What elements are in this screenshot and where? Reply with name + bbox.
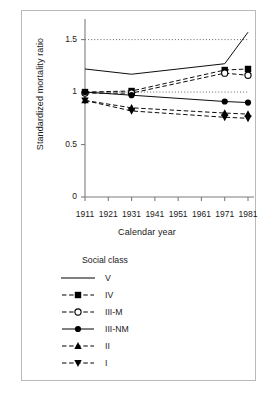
- legend-item-label: V: [105, 273, 111, 283]
- open-circle-marker-icon: [58, 305, 98, 319]
- filled-square-marker-icon: [58, 288, 98, 302]
- y-tick-label: 1.5: [55, 34, 77, 44]
- x-tick-label: 1921: [95, 209, 121, 219]
- figure-frame: Standardized mortality ratio Calendar ye…: [21, 10, 256, 381]
- legend-item-v[interactable]: V: [58, 269, 248, 286]
- legend-item-iii-nm[interactable]: III-NM: [58, 320, 248, 337]
- filled-circle-marker-icon: [58, 322, 98, 336]
- x-tick-label: 1961: [188, 209, 214, 219]
- legend-item-label: IV: [105, 290, 113, 300]
- legend-item-iv[interactable]: IV: [58, 286, 248, 303]
- filled-triangle-up-marker-icon: [58, 339, 98, 353]
- legend-item-label: III-M: [105, 307, 122, 317]
- legend-item-label: III-NM: [105, 324, 129, 334]
- x-tick-label: 1981: [235, 209, 261, 219]
- filled-triangle-down-marker-icon: [58, 356, 98, 370]
- x-tick-label: 1951: [165, 209, 191, 219]
- legend-item-iii-m[interactable]: III-M: [58, 303, 248, 320]
- legend-item-ii[interactable]: II: [58, 337, 248, 354]
- figure-panel: Standardized mortality ratio Calendar ye…: [0, 0, 277, 393]
- legend-item-label: II: [105, 341, 110, 351]
- x-tick-label: 1971: [212, 209, 238, 219]
- y-axis-label: Standardized mortality ratio: [35, 24, 45, 164]
- legend-item-i[interactable]: I: [58, 354, 248, 371]
- line-swatch-icon: [58, 271, 98, 285]
- y-tick-label: 0.5: [55, 139, 77, 149]
- legend-entries: VIVIII-MIII-NMIII: [58, 269, 248, 371]
- x-tick-label: 1911: [72, 209, 98, 219]
- y-tick-label: 1: [55, 86, 77, 96]
- x-tick-label: 1931: [119, 209, 145, 219]
- y-tick-label: 0: [55, 191, 77, 201]
- legend-title: Social class: [82, 255, 248, 265]
- legend-item-label: I: [105, 358, 107, 368]
- chart-legend: Social class VIVIII-MIII-NMIII: [58, 255, 248, 371]
- x-axis-label: Calendar year: [62, 227, 232, 237]
- x-tick-label: 1941: [142, 209, 168, 219]
